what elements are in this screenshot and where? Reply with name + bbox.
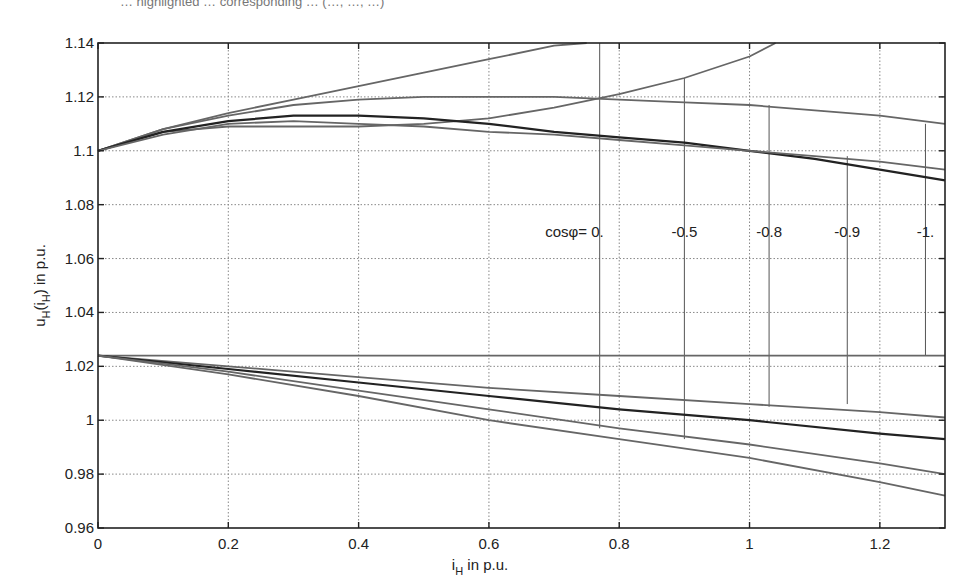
x-tick-label: 1.2 bbox=[869, 535, 890, 552]
series-line bbox=[98, 356, 945, 496]
x-tick-label: 0.2 bbox=[218, 535, 239, 552]
x-tick-label: 0.4 bbox=[348, 535, 369, 552]
y-tick-label: 1 bbox=[86, 411, 94, 428]
x-tick-label: 0 bbox=[94, 535, 102, 552]
cosphi-label: -1. bbox=[917, 223, 935, 240]
cosphi-label: cosφ= 0. bbox=[545, 223, 604, 240]
y-tick-label: 1.06 bbox=[65, 250, 94, 267]
y-tick-label: 1.04 bbox=[65, 303, 94, 320]
x-tick-label: 0.8 bbox=[609, 535, 630, 552]
y-tick-label: 1.08 bbox=[65, 196, 94, 213]
cosphi-label: -0.8 bbox=[756, 223, 782, 240]
y-tick-label: 1.02 bbox=[65, 357, 94, 374]
y-axis-label: uH(iH) in p.u. bbox=[31, 244, 52, 327]
cosphi-annotations: cosφ= 0.-0.5-0.8-0.9-1. bbox=[545, 223, 934, 240]
y-tick-label: 1.1 bbox=[73, 142, 94, 159]
y-tick-label: 1.14 bbox=[65, 34, 94, 51]
y-tick-label: 1.12 bbox=[65, 88, 94, 105]
series-line bbox=[98, 356, 945, 418]
series-line bbox=[98, 116, 945, 181]
y-tick-label: 0.98 bbox=[65, 465, 94, 482]
cosphi-label: -0.9 bbox=[834, 223, 860, 240]
x-axis-label: iH in p.u. bbox=[452, 556, 508, 577]
x-tick-label: 1 bbox=[745, 535, 753, 552]
cosphi-label: -0.5 bbox=[671, 223, 697, 240]
data-series bbox=[98, 43, 945, 496]
cosphi-marker-lines bbox=[600, 43, 926, 439]
series-line bbox=[98, 356, 945, 440]
y-tick-label: 0.96 bbox=[65, 519, 94, 536]
x-tick-label: 0.6 bbox=[478, 535, 499, 552]
line-chart: 00.20.40.60.811.20.960.9811.021.041.061.… bbox=[0, 0, 977, 588]
